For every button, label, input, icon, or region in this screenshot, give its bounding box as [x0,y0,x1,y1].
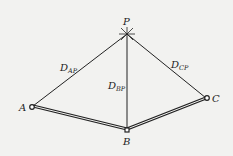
svg-text:D: D [59,62,68,73]
svg-text:D: D [170,59,179,70]
point-label-a: A [18,102,26,113]
distance-line-cp [127,34,206,98]
station-b-marker [125,128,129,132]
distance-label-bp: D BP [107,80,126,93]
svg-text:BP: BP [115,85,126,93]
point-label-b: B [122,136,130,147]
svg-text:AP: AP [67,67,78,75]
svg-text:CP: CP [179,64,189,72]
station-a-marker [30,105,35,110]
station-c-marker [205,96,210,101]
distance-label-ap: D AP [59,62,78,75]
svg-text:D: D [107,80,116,91]
point-label-p: P [122,16,130,27]
traverse-line-bc [127,98,206,129]
traverse-line-ab [33,106,127,129]
distance-label-cp: D CP [170,59,189,72]
distance-line-ap [33,34,127,106]
survey-diagram: P A B C D AP D BP D CP [0,0,233,156]
point-label-c: C [212,93,220,104]
